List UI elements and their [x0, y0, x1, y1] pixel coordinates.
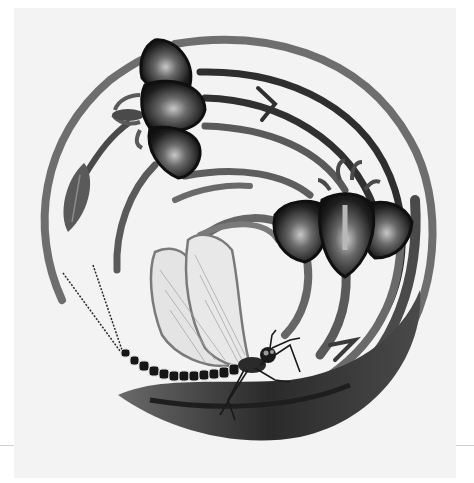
embroidery-artwork: [14, 8, 456, 478]
embroidery-photo: [14, 8, 456, 478]
dragonfly-antenna-left: [63, 273, 120, 351]
edge-line-left: [0, 445, 14, 446]
bud: [63, 122, 130, 232]
edge-line-right: [456, 445, 474, 446]
flower-upper-left: [112, 40, 205, 178]
dragonfly-antenna-right: [93, 265, 122, 350]
